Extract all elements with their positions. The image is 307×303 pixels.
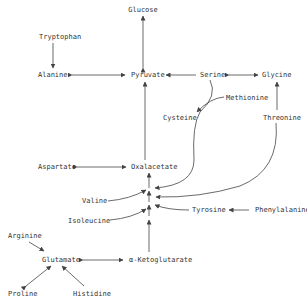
- node-phenylalanine: Phenylalanine: [255, 206, 307, 214]
- edge-histidine-glutamate: [62, 266, 84, 286]
- node-arginine: Arginine: [8, 232, 42, 240]
- node-threonine: Threonine: [263, 114, 301, 122]
- node-glutamate: Glutamate: [42, 256, 80, 264]
- node-aspartate: Aspartate: [38, 163, 76, 171]
- node-glucose: Glucose: [128, 6, 158, 14]
- node-alanine: Alanine: [38, 71, 68, 79]
- node-tyrosine: Tyrosine: [192, 206, 226, 214]
- node-isoleucine: Isoleucine: [68, 217, 110, 225]
- node-histidine: Histidine: [73, 290, 111, 298]
- node-oxalacetate: Oxalacetate: [131, 163, 177, 171]
- edge-arginine-glutamate: [29, 242, 44, 251]
- node-serine: Serine: [200, 71, 225, 79]
- edge-threonine-oxalacetate: [156, 123, 276, 197]
- node-valine: Valine: [82, 197, 107, 205]
- edge-isoleucine-chain: [110, 209, 146, 220]
- edge-valine-chain: [108, 190, 146, 201]
- pathway-diagram: Glucose Tryptophan Alanine Pyruvate Seri…: [0, 0, 307, 303]
- node-tryptophan: Tryptophan: [39, 33, 81, 41]
- edge-proline-glutamate: [26, 266, 51, 286]
- node-proline: Proline: [8, 290, 38, 298]
- node-methionine: Methionine: [226, 94, 268, 102]
- edge-tyrosine-chain: [155, 205, 189, 210]
- edge-serine-oxalacetate: [155, 80, 212, 188]
- node-cysteine: Cysteine: [163, 114, 197, 122]
- node-ketoglutarate: α-Ketoglutarate: [129, 256, 192, 264]
- node-glycine: Glycine: [262, 71, 292, 79]
- node-pyruvate: Pyruvate: [131, 71, 165, 79]
